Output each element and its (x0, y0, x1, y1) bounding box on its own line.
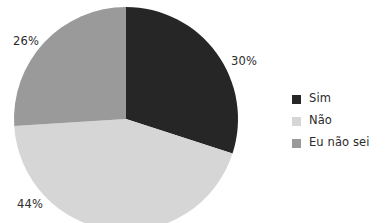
legend-label-sim: Sim (309, 93, 331, 105)
legend-label-eu-nao-sei: Eu não sei (309, 137, 370, 149)
pie-data-label-nao: 44% (17, 199, 43, 211)
pie-data-label-eu-nao-sei: 26% (13, 36, 39, 48)
pie-slice-eu-nao-sei[interactable] (14, 7, 126, 126)
legend-item-nao[interactable]: Não (292, 110, 384, 132)
legend-item-sim[interactable]: Sim (292, 88, 384, 110)
pie-data-label-sim: 30% (231, 56, 257, 68)
legend-item-eu-nao-sei[interactable]: Eu não sei (292, 132, 384, 154)
legend-label-nao: Não (309, 115, 332, 127)
pie-chart-figure: 30% 44% 26% Sim Não Eu não sei (0, 0, 387, 223)
chart-legend: Sim Não Eu não sei (292, 88, 384, 154)
legend-swatch-icon-eu-nao-sei (292, 139, 301, 148)
pie-slices (14, 7, 238, 223)
legend-swatch-icon-sim (292, 95, 301, 104)
legend-swatch-icon-nao (292, 117, 301, 126)
